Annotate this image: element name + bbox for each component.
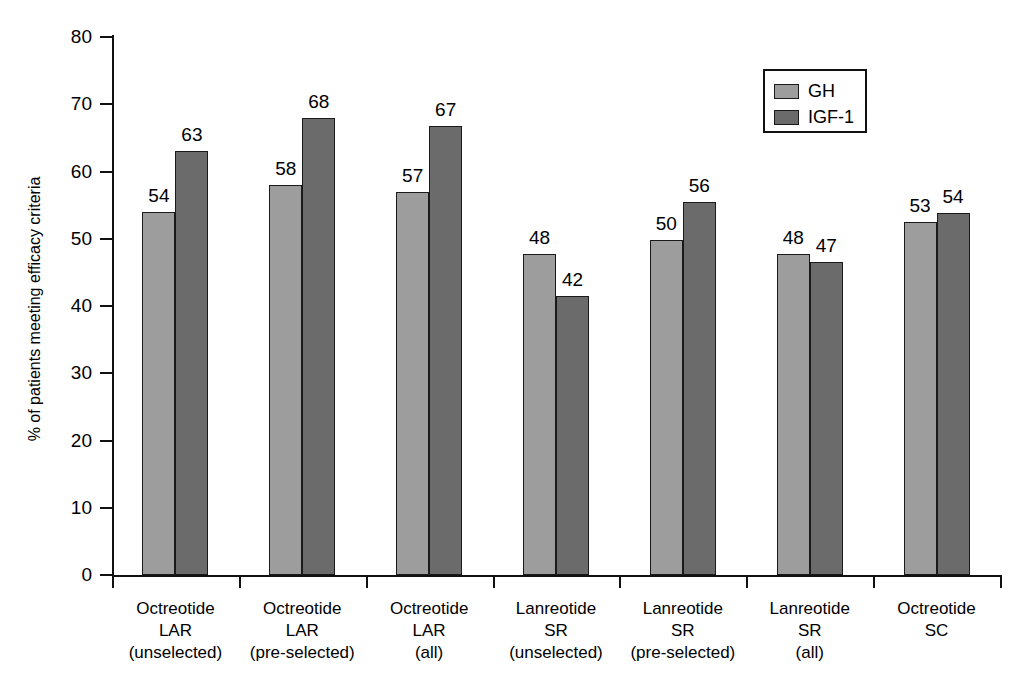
x-category-label: OctreotideLAR(unselected) — [112, 598, 239, 664]
y-tick-label: 30 — [52, 363, 92, 382]
bar-value-label: 54 — [134, 186, 184, 205]
x-category-label-line: Octreotide — [239, 598, 366, 620]
bar-chart: % of patients meeting efficacy criteria … — [0, 0, 1028, 696]
y-tick — [100, 574, 112, 576]
bar-value-label: 68 — [294, 92, 344, 111]
legend-swatch-igf1 — [774, 110, 799, 125]
x-category-label-line: SR — [746, 620, 873, 642]
x-tick — [493, 577, 495, 588]
y-tick — [100, 440, 112, 442]
x-tick — [1000, 577, 1002, 588]
x-category-label-line: LAR — [366, 620, 493, 642]
bar-value-label: 63 — [167, 125, 217, 144]
bar-igf-1-2 — [429, 126, 462, 575]
bar-igf-1-3 — [556, 296, 589, 575]
legend-item-igf1: IGF-1 — [774, 104, 865, 130]
bar-igf-1-0 — [175, 151, 208, 575]
bar-value-label: 47 — [801, 236, 851, 255]
x-category-label-line: SC — [873, 620, 1000, 642]
x-tick — [873, 577, 875, 588]
bar-gh-2 — [396, 192, 429, 575]
x-category-label: OctreotideLAR(pre-selected) — [239, 598, 366, 664]
bar-value-label: 50 — [641, 214, 691, 233]
x-category-label: LanreotideSR(unselected) — [493, 598, 620, 664]
y-tick-label: 40 — [52, 296, 92, 315]
y-tick — [100, 238, 112, 240]
y-tick-label: 10 — [52, 498, 92, 517]
x-tick — [239, 577, 241, 588]
y-tick-label: 0 — [52, 565, 92, 584]
y-tick — [100, 507, 112, 509]
bar-gh-6 — [904, 222, 937, 575]
bar-value-label: 56 — [674, 176, 724, 195]
x-category-label-line: (pre-selected) — [239, 642, 366, 664]
x-axis-line — [112, 575, 1002, 577]
y-tick-label: 20 — [52, 431, 92, 450]
legend-label-gh: GH — [808, 82, 835, 100]
x-tick — [619, 577, 621, 588]
y-tick — [100, 372, 112, 374]
x-tick — [112, 577, 114, 588]
bar-value-label: 42 — [548, 270, 598, 289]
x-category-label: OctreotideLAR(all) — [366, 598, 493, 664]
x-category-label-line: LAR — [239, 620, 366, 642]
x-category-label-line: (pre-selected) — [619, 642, 746, 664]
x-category-label-line: (all) — [366, 642, 493, 664]
bar-value-label: 67 — [421, 100, 471, 119]
x-category-label-line: Octreotide — [873, 598, 1000, 620]
y-tick-label: 80 — [52, 27, 92, 46]
bar-value-label: 48 — [515, 228, 565, 247]
x-category-label-line: Lanreotide — [493, 598, 620, 620]
legend-item-gh: GH — [774, 78, 865, 104]
x-category-label-line: Octreotide — [112, 598, 239, 620]
bar-gh-3 — [523, 254, 556, 575]
bar-igf-1-6 — [937, 213, 970, 575]
bar-value-label: 54 — [928, 187, 978, 206]
legend-swatch-gh — [774, 84, 799, 99]
y-tick — [100, 305, 112, 307]
x-category-label-line: Octreotide — [366, 598, 493, 620]
x-category-label-line: LAR — [112, 620, 239, 642]
bar-value-label: 58 — [261, 159, 311, 178]
x-tick — [366, 577, 368, 588]
x-category-label-line: (all) — [746, 642, 873, 664]
y-tick-label: 70 — [52, 94, 92, 113]
y-axis-title: % of patients meeting efficacy criteria — [26, 144, 44, 474]
y-tick — [100, 103, 112, 105]
x-category-label-line: (unselected) — [493, 642, 620, 664]
legend: GH IGF-1 — [763, 69, 867, 133]
y-tick — [100, 171, 112, 173]
x-category-label-line: (unselected) — [112, 642, 239, 664]
x-category-label: OctreotideSC — [873, 598, 1000, 642]
x-category-label-line: Lanreotide — [619, 598, 746, 620]
x-category-label-line: Lanreotide — [746, 598, 873, 620]
bar-gh-4 — [650, 240, 683, 575]
bar-igf-1-1 — [302, 118, 335, 575]
bar-gh-0 — [142, 212, 175, 575]
x-category-label-line: SR — [619, 620, 746, 642]
x-tick — [746, 577, 748, 588]
y-tick — [100, 36, 112, 38]
bar-igf-1-5 — [810, 262, 843, 575]
y-tick-label: 60 — [52, 162, 92, 181]
legend-label-igf1: IGF-1 — [808, 108, 854, 126]
bar-gh-1 — [269, 185, 302, 575]
bar-value-label: 57 — [388, 166, 438, 185]
x-category-label: LanreotideSR(all) — [746, 598, 873, 664]
x-category-label: LanreotideSR(pre-selected) — [619, 598, 746, 664]
y-tick-label: 50 — [52, 229, 92, 248]
bar-igf-1-4 — [683, 202, 716, 575]
x-category-label-line: SR — [493, 620, 620, 642]
bar-gh-5 — [777, 254, 810, 575]
